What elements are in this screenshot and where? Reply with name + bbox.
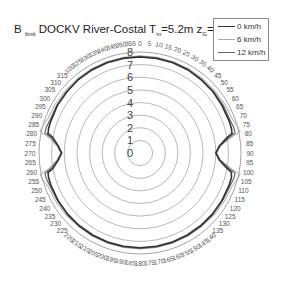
angular-tick-label: 95 bbox=[246, 159, 254, 166]
radial-grid bbox=[39, 52, 241, 254]
angular-tick-label: 255 bbox=[28, 178, 39, 185]
legend-label-2: 12 km/h bbox=[237, 48, 265, 57]
radial-ring-2 bbox=[115, 128, 166, 179]
radial-tick-label: 0 bbox=[127, 147, 133, 159]
angular-tick-label: 105 bbox=[241, 178, 252, 185]
angular-tick-label: 120 bbox=[230, 205, 241, 212]
angular-tick-label: 235 bbox=[44, 213, 55, 220]
radial-ring-7 bbox=[52, 65, 229, 242]
title-prefix: B bbox=[14, 23, 22, 35]
radial-tick-label: 2 bbox=[127, 122, 133, 134]
angular-tick-label: 115 bbox=[235, 196, 246, 203]
angular-tick-label: 55 bbox=[226, 86, 234, 93]
angular-tick-label: 295 bbox=[35, 103, 46, 110]
angular-tick-label: 20 bbox=[173, 45, 183, 54]
angular-tick-label: 245 bbox=[35, 196, 46, 203]
angular-tick-label: 305 bbox=[44, 86, 55, 93]
radial-tick-label: 3 bbox=[127, 109, 133, 121]
radial-ring-8 bbox=[39, 52, 241, 254]
angular-tick-label: 0 bbox=[138, 40, 142, 47]
angular-tick-label: 125 bbox=[225, 213, 236, 220]
title-prefix-sub: limit bbox=[25, 31, 36, 37]
angular-tick-label: 110 bbox=[238, 187, 249, 194]
legend-swatch-2 bbox=[218, 52, 235, 53]
radial-ring-5 bbox=[77, 90, 203, 216]
legend-label-0: 0 km/h bbox=[237, 22, 261, 31]
series-lines bbox=[40, 56, 240, 249]
angular-tick-label: 290 bbox=[31, 112, 42, 119]
angular-tick-label: 60 bbox=[232, 95, 240, 102]
angular-tick-label: 175 bbox=[144, 259, 156, 267]
angular-tick-label: 70 bbox=[240, 112, 248, 119]
angular-tick-label: 45 bbox=[214, 72, 222, 79]
series-line-0-km-h bbox=[48, 57, 232, 248]
radial-tick-label: 1 bbox=[127, 134, 133, 146]
title-t-value: =5.2m z bbox=[161, 23, 202, 35]
legend: 0 km/h 6 km/h 12 km/h bbox=[213, 18, 269, 61]
angular-tick-label: 75 bbox=[243, 121, 251, 128]
legend-entry-2: 12 km/h bbox=[218, 48, 265, 60]
angular-tick-label: 265 bbox=[25, 159, 36, 166]
radial-tick-label: 5 bbox=[127, 84, 133, 96]
radial-tick-label: 6 bbox=[127, 71, 133, 83]
angular-tick-label: 180 bbox=[135, 260, 146, 267]
angular-tick-labels: 0510152025303540455055606570758085909510… bbox=[25, 39, 255, 266]
legend-entry-0: 0 km/h bbox=[218, 22, 261, 34]
angular-tick-label: 270 bbox=[25, 150, 36, 157]
angular-tick-label: 65 bbox=[236, 103, 244, 110]
legend-entry-1: 6 km/h bbox=[218, 35, 261, 47]
angular-tick-label: 50 bbox=[221, 79, 229, 86]
angular-tick-label: 225 bbox=[57, 227, 68, 234]
radial-tick-label: 7 bbox=[127, 59, 133, 71]
angular-tick-label: 130 bbox=[219, 220, 230, 227]
angular-tick-label: 285 bbox=[28, 121, 39, 128]
angular-tick-label: 80 bbox=[245, 130, 253, 137]
radial-ring-4 bbox=[90, 103, 191, 204]
radial-ring-3 bbox=[102, 115, 178, 191]
angular-tick-label: 240 bbox=[39, 205, 50, 212]
angular-tick-label: 100 bbox=[243, 169, 254, 176]
radial-tick-label: 4 bbox=[127, 97, 133, 109]
angular-tick-label: 280 bbox=[26, 130, 37, 137]
angular-tick-label: 355 bbox=[125, 39, 137, 47]
angular-tick-label: 25 bbox=[182, 49, 192, 59]
series-line-6-km-h bbox=[40, 56, 240, 249]
title-main: DOCKV River-Costal T bbox=[39, 23, 156, 35]
angular-tick-label: 5 bbox=[147, 40, 152, 47]
angular-tick-label: 85 bbox=[246, 140, 254, 147]
legend-label-1: 6 km/h bbox=[237, 35, 261, 44]
angular-tick-label: 260 bbox=[26, 169, 37, 176]
legend-swatch-1 bbox=[218, 39, 235, 40]
angular-tick-label: 15 bbox=[164, 42, 173, 51]
angular-tick-label: 90 bbox=[246, 150, 254, 157]
angular-tick-label: 230 bbox=[50, 220, 61, 227]
legend-swatch-0 bbox=[218, 26, 235, 27]
angular-tick-label: 250 bbox=[31, 187, 42, 194]
chart-title: B limit DOCKV River-Costal Tm=5.2m zG=16… bbox=[14, 23, 236, 37]
radial-tick-labels: 012345678 bbox=[127, 46, 133, 159]
radial-ring-6 bbox=[64, 77, 216, 229]
angular-tick-label: 310 bbox=[50, 79, 61, 86]
angular-tick-label: 300 bbox=[39, 95, 50, 102]
angular-tick-label: 10 bbox=[155, 41, 164, 49]
angular-tick-label: 275 bbox=[25, 140, 36, 147]
